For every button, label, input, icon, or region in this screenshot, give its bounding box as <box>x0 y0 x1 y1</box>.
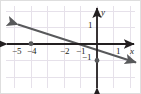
x-tick-label-neg5: −5 <box>12 47 22 56</box>
x-tick-label-neg4: −4 <box>27 47 37 56</box>
coordinate-plane-figure: −5 −4 −2 −1 1 1 −1 x y <box>0 0 141 94</box>
x-tick-label-1: 1 <box>116 47 121 56</box>
point-y-intercept <box>95 58 100 63</box>
x-axis-label: x <box>130 47 134 56</box>
y-tick-label-1: 1 <box>88 21 93 30</box>
y-axis-label: y <box>101 8 105 17</box>
y-tick-label-neg1: −1 <box>82 53 92 62</box>
x-tick-label-neg2: −2 <box>60 47 70 56</box>
